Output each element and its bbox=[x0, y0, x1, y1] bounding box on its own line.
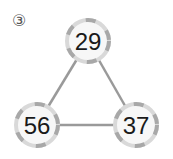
triangle-diagram: ③ 29 56 37 bbox=[0, 0, 173, 159]
node-top: 29 bbox=[67, 20, 109, 62]
node-bottom-left: 56 bbox=[16, 104, 58, 146]
node-value-bottom-left: 56 bbox=[24, 112, 51, 139]
node-bottom-right: 37 bbox=[115, 104, 157, 146]
node-value-top: 29 bbox=[75, 28, 102, 55]
diagram-canvas: 29 56 37 bbox=[0, 0, 173, 159]
node-value-bottom-right: 37 bbox=[123, 112, 150, 139]
